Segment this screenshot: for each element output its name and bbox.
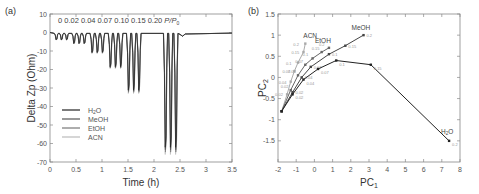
data-point <box>311 57 313 59</box>
panel-a-y-label: Delta Zp (Ohm) <box>26 54 37 123</box>
legend-label-h2o: H2O <box>88 107 102 116</box>
point-label: 0.2 <box>452 142 458 147</box>
x-tick-label: 8 <box>458 166 462 173</box>
x-tick-label: 0 <box>312 166 316 173</box>
data-point <box>310 66 312 68</box>
trace-acn <box>50 33 232 155</box>
y-tick-label: 1.5 <box>265 11 275 18</box>
panel-a-chart: (a) 100-10-20-30-40-50-60-70 00.511.522.… <box>5 6 237 188</box>
data-point <box>302 78 304 80</box>
panel-a-traces <box>50 33 232 155</box>
data-point <box>328 53 330 55</box>
panel-a-x-ticks: 00.511.522.533.5 <box>48 14 237 173</box>
point-label: 0.04 <box>306 81 315 86</box>
y-tick-label: 0 <box>271 74 275 81</box>
x-tick-label: 1 <box>331 166 335 173</box>
data-point <box>320 51 322 53</box>
x-tick-label: -2 <box>275 166 281 173</box>
y-tick-label: -30 <box>37 85 47 92</box>
point-label: 0.07 <box>321 70 330 75</box>
x-tick-label: 7 <box>440 166 444 173</box>
data-point <box>370 64 372 66</box>
panel-b-chart: (b) 1.510.50-0.5-1-1.5 -2-1012345678 0.0… <box>248 6 462 189</box>
point-label: 0.1 <box>339 62 345 67</box>
series-label-meoh: MeOH <box>352 24 371 31</box>
legend-label-acn: ACN <box>88 134 103 141</box>
y-tick-label: -1 <box>269 116 275 123</box>
x-tick-label: 2.5 <box>175 166 185 173</box>
y-tick-label: -20 <box>37 66 47 73</box>
data-point <box>290 89 292 91</box>
data-point <box>328 47 330 49</box>
x-tick-label: -1 <box>293 166 299 173</box>
point-label: 0.15 <box>348 44 357 49</box>
point-label: 0.02 <box>296 95 305 100</box>
panel-a-x-label: Time (h) <box>123 177 160 188</box>
series-h2o: 0.020.040.070.10.150.2H2O <box>280 59 458 147</box>
y-tick-label: 10 <box>39 11 47 18</box>
y-tick-label: -60 <box>37 140 47 147</box>
y-tick-label: -10 <box>37 48 47 55</box>
y-tick-label: -70 <box>37 159 47 166</box>
x-tick-label: 0.5 <box>71 166 81 173</box>
panel-b-y-label: PC2 <box>257 79 269 97</box>
point-label: 0.15 <box>291 50 300 55</box>
point-label: 0.2 <box>293 42 299 47</box>
data-point <box>286 93 288 95</box>
point-label: 0.02 <box>275 92 284 97</box>
data-point <box>335 59 337 61</box>
data-point <box>304 42 306 44</box>
trace-meoh <box>50 33 232 150</box>
data-point <box>317 68 319 70</box>
point-label: 0.02 <box>281 84 290 89</box>
x-tick-label: 6 <box>422 166 426 173</box>
point-label: 0.15 <box>374 66 383 71</box>
panel-a-label: (a) <box>5 6 16 16</box>
x-tick-label: 0 <box>48 166 52 173</box>
x-tick-label: 3.5 <box>227 166 237 173</box>
data-point <box>448 140 450 142</box>
x-tick-label: 4 <box>385 166 389 173</box>
point-label: 0.1 <box>332 52 338 57</box>
panel-b-label: (b) <box>248 6 259 16</box>
panel-b-x-label: PC1 <box>360 177 378 189</box>
y-tick-label: 0 <box>43 29 47 36</box>
x-tick-label: 3 <box>204 166 208 173</box>
data-point <box>300 76 302 78</box>
legend-label-meoh: MeOH <box>88 116 108 123</box>
x-tick-label: 1.5 <box>123 166 133 173</box>
data-point <box>280 110 282 112</box>
pressure-annotation: 0 0.02 0.04 0.07 0.10 0.15 0.20 P/P0 <box>58 16 179 26</box>
point-label: 0.07 <box>295 59 304 64</box>
x-tick-label: 1 <box>100 166 104 173</box>
data-point <box>291 93 293 95</box>
point-label: 0.04 <box>288 69 297 74</box>
point-label: 0.1 <box>303 52 309 57</box>
point-label: 0.2 <box>367 33 373 38</box>
figure: (a) 100-10-20-30-40-50-60-70 00.511.522.… <box>0 0 479 194</box>
trace-h2o <box>50 33 232 148</box>
y-tick-label: 1 <box>271 32 275 39</box>
x-tick-label: 3 <box>367 166 371 173</box>
data-point <box>297 74 299 76</box>
series-label-etoh: EtOH <box>315 37 331 44</box>
panel-a-legend: H2OMeOHEtOHACN <box>62 107 108 141</box>
point-label: 0.1 <box>286 61 292 66</box>
trace-etoh <box>50 33 232 153</box>
x-tick-label: 5 <box>403 166 407 173</box>
x-tick-label: 2 <box>152 166 156 173</box>
panel-b-series: 0.020.040.070.10.150.2ACN0.020.040.070.1… <box>275 24 458 147</box>
legend-label-etoh: EtOH <box>88 125 105 132</box>
x-tick-label: 2 <box>349 166 353 173</box>
y-tick-label: -50 <box>37 122 47 129</box>
y-tick-label: -1.5 <box>263 137 275 144</box>
data-point <box>362 34 364 36</box>
data-point <box>290 80 292 82</box>
data-point <box>304 64 306 66</box>
y-tick-label: -40 <box>37 103 47 110</box>
y-tick-label: 0.5 <box>265 53 275 60</box>
data-point <box>344 45 346 47</box>
